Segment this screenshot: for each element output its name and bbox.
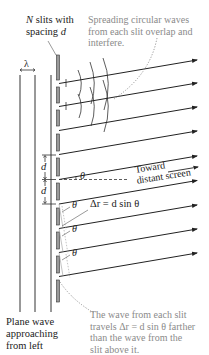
theta-label-1: θ [72, 199, 77, 211]
theta-label-2: θ [72, 223, 77, 235]
plane-wavefronts [20, 75, 51, 312]
plane-wave-label: Plane wave approaching from left [6, 316, 58, 352]
path-difference-formula: Δr = d sin θ [90, 198, 139, 210]
multi-slit-diagram: N slits with spacing d Spreading circula… [0, 0, 209, 355]
circular-wavelets [78, 58, 108, 132]
theta-label-center: θ [80, 170, 85, 182]
path-difference-note: The wave from each slit travels Δr = d s… [90, 309, 195, 355]
slits-title: N slits with spacing d [26, 14, 74, 37]
path-difference-lines [59, 204, 70, 278]
wavelength-label: λ [24, 58, 29, 70]
slits-leader-line [48, 41, 56, 55]
slit-barrier [57, 55, 60, 302]
spacing-label-upper: d [41, 161, 46, 173]
path-diff-callout-line [60, 282, 94, 313]
spacing-label-lower: d [41, 185, 46, 197]
spreading-waves-note: Spreading circular waves from each slit … [88, 14, 192, 49]
theta-label-3: θ [72, 247, 77, 259]
